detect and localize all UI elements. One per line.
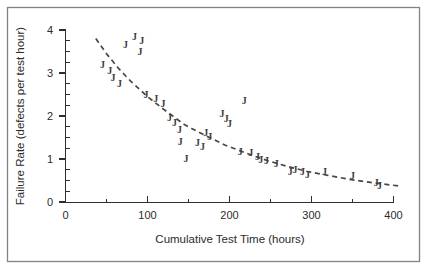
- data-point-marker: J: [305, 169, 310, 180]
- data-point-marker: J: [207, 131, 212, 142]
- data-point-marker: J: [161, 98, 166, 109]
- figure-frame: [8, 8, 420, 262]
- data-point-marker: J: [184, 153, 189, 164]
- x-tick-label: 0: [62, 209, 68, 221]
- data-point-marker: J: [178, 136, 183, 147]
- data-point-marker: J: [242, 95, 247, 106]
- y-tick-label: 3: [47, 67, 53, 79]
- y-tick-label: 2: [47, 110, 53, 122]
- data-point-marker: J: [143, 89, 148, 100]
- data-point-marker: J: [377, 180, 382, 191]
- data-point-marker: J: [177, 124, 182, 135]
- data-point-marker: J: [248, 147, 253, 158]
- data-point-marker: J: [264, 155, 269, 166]
- y-tick-label: 1: [47, 153, 53, 165]
- data-point-marker: J: [274, 158, 279, 169]
- data-point-marker: J: [258, 154, 263, 165]
- data-point-marker: J: [200, 141, 205, 152]
- data-point-marker: J: [153, 93, 158, 104]
- data-point-marker: J: [139, 35, 144, 46]
- data-point-marker: J: [123, 39, 128, 50]
- data-point-marker: J: [132, 31, 137, 42]
- y-tick-label: 0: [47, 196, 53, 208]
- data-point-marker: J: [100, 59, 105, 70]
- data-point-marker: J: [117, 78, 122, 89]
- data-point-marker: J: [138, 46, 143, 57]
- data-point-marker: J: [111, 72, 116, 83]
- y-axis-title: Failure Rate (defects per test hour): [14, 27, 26, 205]
- x-tick-label: 100: [138, 209, 156, 221]
- data-point-marker: J: [238, 146, 243, 157]
- y-tick-label: 4: [47, 24, 53, 36]
- x-axis-title: Cumulative Test Time (hours): [155, 233, 305, 245]
- x-tick-label: 200: [220, 209, 238, 221]
- x-tick-label: 400: [384, 209, 402, 221]
- data-point-marker: J: [322, 166, 327, 177]
- data-point-marker: J: [227, 118, 232, 129]
- data-point-marker: J: [293, 164, 298, 175]
- data-point-marker: J: [350, 170, 355, 181]
- x-tick-label: 300: [302, 209, 320, 221]
- failure-rate-chart: Failure Rate (defects per test hour) Cum…: [0, 0, 430, 271]
- figure-page: Failure Rate (defects per test hour) Cum…: [0, 0, 430, 271]
